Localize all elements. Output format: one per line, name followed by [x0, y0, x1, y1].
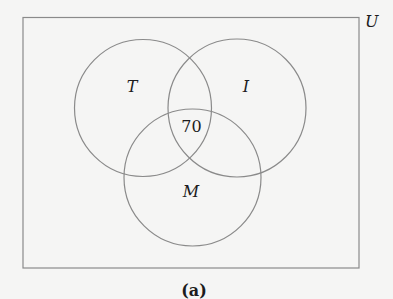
venn-diagram-figure: U T I M 70 (a) [0, 0, 393, 299]
universe-label: U [365, 12, 379, 31]
figure-caption: (a) [181, 281, 207, 299]
set-label-i: I [242, 77, 250, 96]
region-value-t-i-m: 70 [181, 117, 201, 136]
set-circle-i [168, 39, 306, 177]
set-circle-t [75, 40, 212, 177]
set-label-t: T [127, 77, 139, 96]
venn-diagram: U T I M 70 (a) [0, 0, 393, 299]
set-label-m: M [182, 182, 200, 201]
universe-rectangle [23, 18, 359, 269]
